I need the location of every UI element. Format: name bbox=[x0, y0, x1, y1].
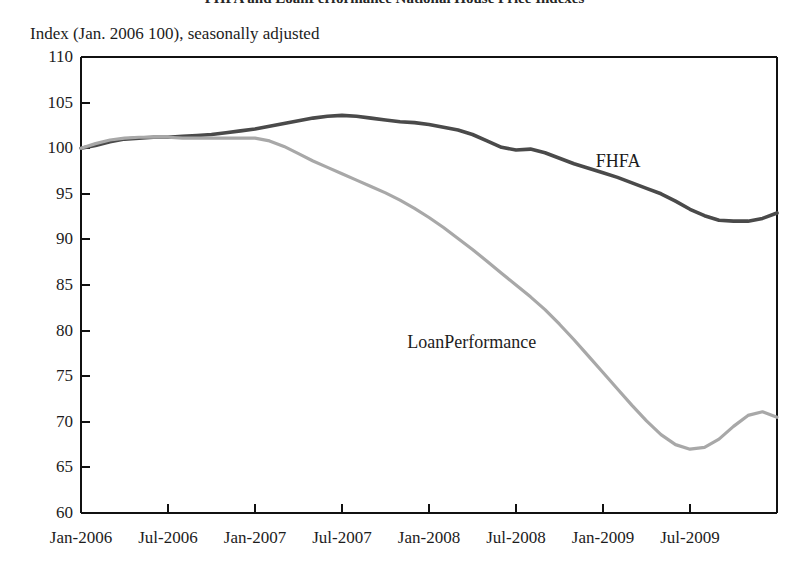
y-tick-label: 60 bbox=[27, 504, 73, 521]
y-tick-label: 110 bbox=[27, 48, 73, 65]
y-tick-label: 105 bbox=[27, 94, 73, 111]
y-tick-label: 70 bbox=[27, 413, 73, 430]
y-tick-label: 80 bbox=[27, 322, 73, 339]
y-tick-label: 95 bbox=[27, 185, 73, 202]
series-label-fhfa: FHFA bbox=[596, 152, 641, 170]
y-tick-label: 100 bbox=[27, 139, 73, 156]
data-series bbox=[81, 115, 777, 449]
series-line-fhfa bbox=[81, 115, 777, 221]
series-label-loanperformance: LoanPerformance bbox=[407, 333, 536, 351]
y-tick-label: 65 bbox=[27, 458, 73, 475]
axis-ticks bbox=[81, 57, 690, 513]
y-tick-label: 75 bbox=[27, 367, 73, 384]
chart-figure: FHFA and LoanPerformance National House … bbox=[0, 0, 789, 566]
series-line-loanperformance bbox=[81, 137, 777, 449]
y-tick-label: 85 bbox=[27, 276, 73, 293]
x-tick-label: Jul-2009 bbox=[635, 529, 745, 546]
y-tick-label: 90 bbox=[27, 230, 73, 247]
plot-canvas bbox=[0, 0, 789, 566]
